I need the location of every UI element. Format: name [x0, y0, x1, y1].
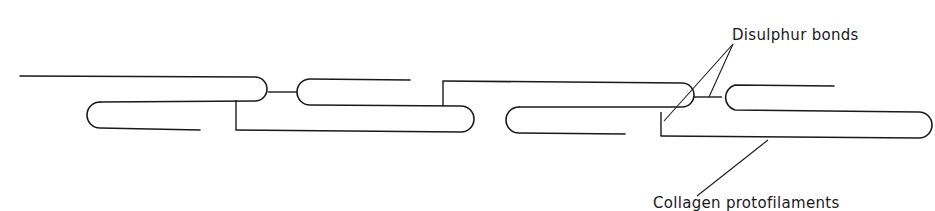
protofilament-1 — [20, 76, 267, 102]
disulphur-bonds-label: Disulphur bonds — [732, 26, 859, 44]
protofilament-leader — [697, 140, 768, 196]
protofilament-1-hairpin — [87, 102, 200, 130]
collagen-crosslink-diagram: Disulphur bonds Collagen protofilaments — [0, 0, 935, 211]
protofilament-3 — [443, 81, 694, 107]
collagen-protofilaments-label: Collagen protofilaments — [653, 194, 840, 211]
protofilament-4 — [661, 85, 932, 138]
protofilament-3-hairpin — [506, 107, 625, 134]
protofilament-2 — [236, 79, 474, 132]
